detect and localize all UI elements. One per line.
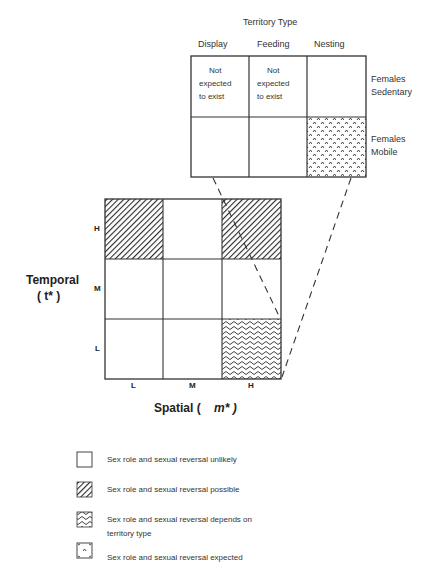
inset-cell-feeding-sedentary: Not expected to exist — [257, 64, 289, 103]
territory-type-title: Territory Type — [243, 16, 297, 28]
y-tick-l: L — [95, 344, 100, 353]
main-grid — [105, 199, 281, 379]
x-tick-l: L — [131, 381, 136, 390]
y-tick-m: M — [94, 284, 101, 293]
legend-icons — [77, 452, 92, 558]
inset-cell-display-sedentary: Not expected to exist — [199, 64, 231, 103]
column-label-feeding: Feeding — [257, 38, 290, 50]
legend-label-unlikely: Sex role and sexual reversal unlikely — [107, 454, 237, 466]
y-axis-symbol: ( t* ) — [37, 289, 60, 303]
row-label-females-sedentary: Females Sedentary — [371, 73, 412, 99]
row-label-females-mobile: Females Mobile — [371, 133, 406, 159]
x-tick-h: H — [248, 381, 254, 390]
column-label-display: Display — [198, 38, 228, 50]
legend-label-depends: Sex role and sexual reversal depends on … — [107, 513, 252, 541]
y-axis-label: Temporal — [26, 273, 79, 287]
legend-label-expected: Sex role and sexual reversal expected — [107, 552, 243, 564]
x-axis-label: Spatial ( m* ) — [154, 401, 237, 415]
y-tick-h: H — [94, 224, 100, 233]
x-tick-m: M — [189, 381, 196, 390]
legend-label-possible: Sex role and sexual reversal possible — [107, 484, 240, 496]
column-label-nesting: Nesting — [314, 38, 345, 50]
